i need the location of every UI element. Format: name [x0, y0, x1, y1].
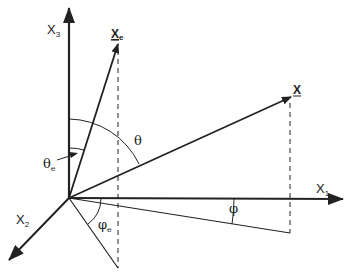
label-theta: θ: [134, 133, 142, 148]
vector-x: [69, 97, 291, 198]
arc-theta-e: [69, 148, 84, 150]
label-theta-e: θe: [43, 156, 56, 173]
label-phi: φ: [229, 201, 238, 216]
arc-theta: [69, 119, 139, 164]
theta-e-pointer: [57, 152, 78, 160]
vector-xe: [69, 44, 118, 198]
label-phi-e: φe: [98, 217, 112, 234]
label-x2: X2: [16, 212, 30, 229]
label-x1: X1: [316, 181, 330, 198]
axis-x2: [9, 198, 69, 260]
axis-x1: [69, 198, 343, 199]
label-x3: X3: [47, 22, 61, 39]
coordinate-diagram: X3 Xe X X1 X2 θ θe φ φe: [0, 0, 347, 277]
label-x: X: [293, 83, 301, 97]
